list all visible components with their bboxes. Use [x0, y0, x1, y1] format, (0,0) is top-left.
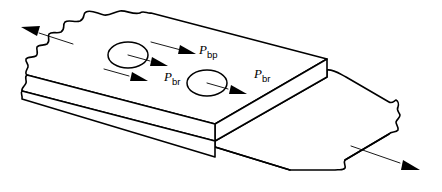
bearing-force-diagram: Pbp Pbr Pbr — [0, 0, 442, 192]
tension-arrow-lower-right-shaft — [351, 146, 400, 163]
tension-arrow-lower-right-head — [401, 160, 420, 170]
tension-arrow-upper-left-head — [21, 26, 40, 36]
diagram-canvas: Pbp Pbr Pbr — [0, 0, 442, 192]
tension-arrow-lower-right — [351, 146, 420, 170]
